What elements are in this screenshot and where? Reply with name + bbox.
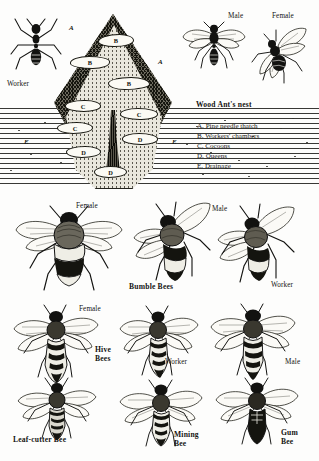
chamber-d1: D xyxy=(122,133,158,145)
chamber-c2: C xyxy=(120,108,158,120)
leaf-cutter-bee-label: Leaf-cutter Bee xyxy=(13,436,66,445)
male-ant-figure xyxy=(182,18,246,76)
hive-bee-male-label: Male xyxy=(285,358,300,366)
female-ant-figure xyxy=(250,26,312,88)
legend-item-e: E. Drainage xyxy=(197,161,259,171)
bumble-bee-worker-figure xyxy=(212,204,308,296)
gum-bee-label: Gum Bee xyxy=(281,428,298,447)
soil-speck xyxy=(294,156,296,157)
hive-bee-worker-label: Worker xyxy=(165,358,187,366)
bumble-bee-female-label: Female xyxy=(76,202,98,210)
nest-label-e-right: E xyxy=(172,138,177,146)
bumble-bee-female-figure xyxy=(14,198,126,298)
legend-item-b: B. Workers' chambers xyxy=(197,131,259,141)
hive-bee-female-figure xyxy=(10,303,102,385)
bumble-bee-male-figure xyxy=(126,200,222,292)
legend-item-a: A. Pine needle thatch xyxy=(197,121,259,131)
soil-speck xyxy=(280,128,282,129)
soil-speck xyxy=(30,154,32,155)
bumble-bee-worker-label: Worker xyxy=(271,281,293,289)
hive-bees-caption: Hive Bees xyxy=(95,345,111,364)
legend-item-c: C. Cocoons xyxy=(197,141,259,151)
soil-speck xyxy=(248,176,250,177)
soil-speck xyxy=(10,170,12,171)
nest-label-e-left: E xyxy=(24,138,29,146)
soil-speck xyxy=(44,122,46,123)
hive-bee-female-label: Female xyxy=(79,305,101,313)
female-ant-label: Female xyxy=(272,12,294,20)
soil-speck xyxy=(292,118,294,119)
soil-speck xyxy=(186,144,188,145)
wood-ant-nest-diagram: B B B C C C D D D A A xyxy=(54,14,172,196)
illustration-plate: Worker B B B C C C D D D A A E E xyxy=(0,0,319,461)
hive-bee-worker-figure xyxy=(116,305,202,383)
chamber-b2: B xyxy=(70,56,110,69)
nest-label-a-right: A xyxy=(158,58,163,66)
nest-caption: Wood Ant's nest xyxy=(196,101,252,110)
nest-label-a-left: A xyxy=(69,24,74,32)
soil-speck xyxy=(202,174,204,175)
bumble-bees-caption: Bumble Bees xyxy=(129,283,173,292)
soil-speck xyxy=(266,166,268,167)
chamber-c1: C xyxy=(65,100,101,112)
soil-speck xyxy=(18,130,20,131)
male-ant-label: Male xyxy=(228,12,243,20)
soil-speck xyxy=(306,142,308,143)
worker-ant-label: Worker xyxy=(7,80,29,88)
legend-item-d: D. Queens xyxy=(197,151,259,161)
mining-bee-label: Mining Bee xyxy=(174,430,199,449)
nest-legend: A. Pine needle thatch B. Workers' chambe… xyxy=(197,121,259,171)
hive-bee-male-figure xyxy=(207,303,299,383)
